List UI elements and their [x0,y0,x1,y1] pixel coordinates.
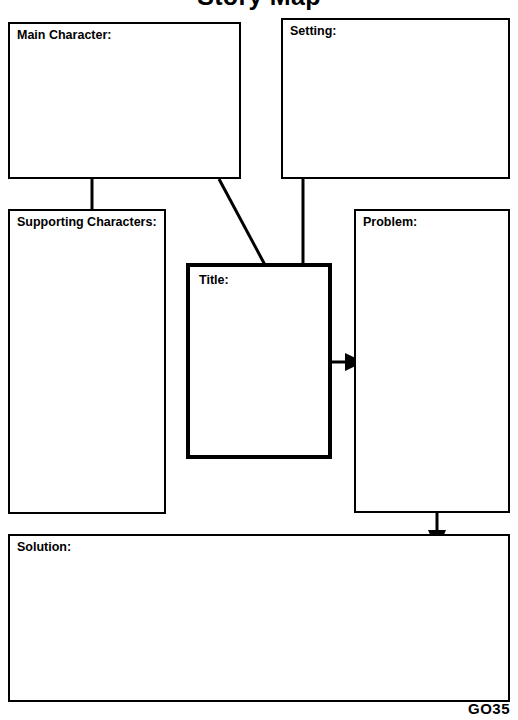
solution-label: Solution: [17,540,71,554]
title-box[interactable]: Title: [186,263,332,459]
worksheet-code: GO35 [468,700,510,717]
page-title: Story Map [0,0,518,11]
title-label: Title: [199,273,229,287]
supporting-characters-box[interactable]: Supporting Characters: [8,209,166,514]
problem-box[interactable]: Problem: [354,209,510,513]
supporting-characters-label: Supporting Characters: [17,215,157,229]
solution-box[interactable]: Solution: [8,534,510,702]
main-character-label: Main Character: [17,28,111,42]
story-map-worksheet: Story Map Main Character: Setting: Suppo… [0,0,518,720]
problem-label: Problem: [363,215,417,229]
setting-box[interactable]: Setting: [281,18,510,179]
connector-main-to-title [219,179,265,265]
setting-label: Setting: [290,24,337,38]
main-character-box[interactable]: Main Character: [8,22,241,179]
